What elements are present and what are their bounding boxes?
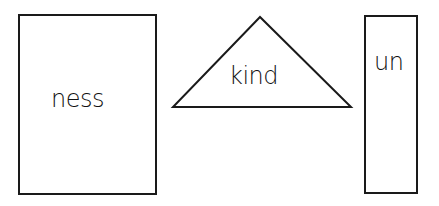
kind-label: kind bbox=[229, 62, 278, 90]
un-label: un bbox=[374, 48, 403, 76]
un-rectangle bbox=[365, 16, 417, 193]
ness-label: ness bbox=[51, 85, 104, 113]
